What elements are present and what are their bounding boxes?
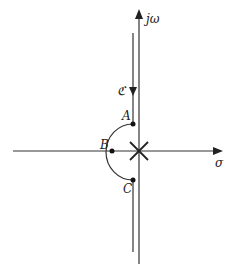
- imag-axis-arrow-icon: [135, 9, 143, 19]
- real-axis: [13, 147, 223, 155]
- point-b: [110, 149, 115, 154]
- s-plane-diagram: jω σ ℭ A B C: [0, 0, 239, 275]
- point-b-label: B: [99, 138, 109, 152]
- contour-label: ℭ: [117, 84, 127, 98]
- contour: [106, 33, 137, 252]
- real-axis-arrow-icon: [213, 147, 223, 155]
- imag-axis: [135, 9, 143, 264]
- point-c-label: C: [123, 182, 132, 196]
- imag-axis-label: jω: [143, 12, 160, 26]
- point-a: [131, 122, 136, 127]
- point-a-label: A: [121, 109, 131, 123]
- contour-direction-arrow-icon: [129, 87, 137, 96]
- real-axis-label: σ: [215, 156, 224, 170]
